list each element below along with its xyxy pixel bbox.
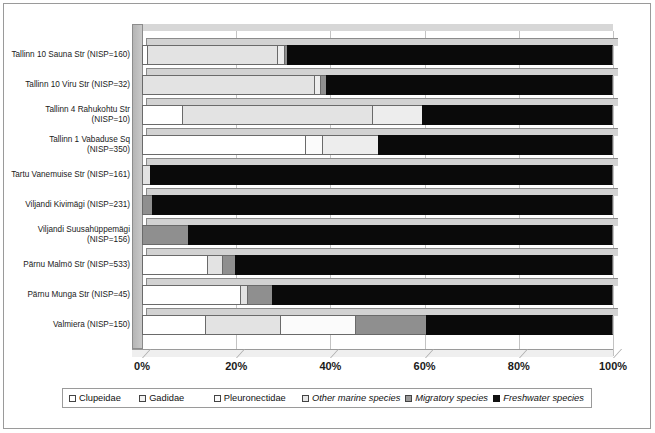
bar-row <box>142 315 613 335</box>
legend-label: Pleuronectidae <box>224 393 286 403</box>
bar-segment-pleuronectidae[interactable] <box>305 135 322 155</box>
legend-swatch-icon <box>139 395 146 402</box>
bar-segment-gadidae[interactable] <box>240 285 247 305</box>
legend-swatch-icon <box>302 395 309 402</box>
plot-area <box>142 31 613 356</box>
category-label: Tallinn 4 Rahukohtu Str(NISP=10) <box>0 105 130 125</box>
stacked-bar[interactable] <box>142 255 613 275</box>
bar-segment-clupeidae[interactable] <box>142 285 240 305</box>
category-label: Pärnu Malmö Str (NISP=533) <box>0 260 130 270</box>
legend-item-other-marine-species[interactable]: Other marine species <box>298 393 401 403</box>
bar-segment-freshwater-species[interactable] <box>272 285 613 305</box>
legend-item-gadidae[interactable]: Gadidae <box>135 393 210 403</box>
stacked-bar[interactable] <box>142 135 613 155</box>
bar-segment-gadidae[interactable] <box>205 315 280 335</box>
bar-segment-clupeidae[interactable] <box>142 135 305 155</box>
bar-segment-clupeidae[interactable] <box>142 255 207 275</box>
legend-swatch-icon <box>214 395 221 402</box>
category-label: Valmiera (NISP=150) <box>0 320 130 330</box>
legend-label: Freshwater species <box>503 393 584 403</box>
bar-row <box>142 45 613 65</box>
chart-screenshot: Tallinn 10 Sauna Str (NISP=160)Tallinn 1… <box>0 0 655 433</box>
bar-segment-other-marine-species[interactable] <box>277 45 285 65</box>
category-label: Tallinn 10 Viru Str (NISP=32) <box>0 80 130 90</box>
stacked-bar[interactable] <box>142 105 613 125</box>
bar-row <box>142 75 613 95</box>
x-tick-label-100: 100% <box>590 360 636 372</box>
bar-segment-migratory-species[interactable] <box>355 315 425 335</box>
bar-row <box>142 225 613 245</box>
plot-floor <box>132 349 613 357</box>
category-label: Pärnu Munga Str (NISP=45) <box>0 290 130 300</box>
x-tick-label-80: 80% <box>496 360 542 372</box>
x-tick-label-60: 60% <box>402 360 448 372</box>
legend-swatch-icon <box>405 395 412 402</box>
legend-item-migratory-species[interactable]: Migratory species <box>401 393 489 403</box>
bar-segment-gadidae[interactable] <box>147 45 277 65</box>
bar-segment-migratory-species[interactable] <box>222 255 235 275</box>
bar-segment-other-marine-species[interactable] <box>322 135 378 155</box>
bar-segment-freshwater-species[interactable] <box>235 255 613 275</box>
legend-swatch-icon <box>69 395 76 402</box>
bar-segment-pleuronectidae[interactable] <box>280 315 355 335</box>
bar-row <box>142 285 613 305</box>
x-tick-label-0: 0% <box>119 360 165 372</box>
legend-label: Other marine species <box>312 393 400 403</box>
bar-segment-migratory-species[interactable] <box>142 195 152 215</box>
bar-segment-migratory-species[interactable] <box>247 285 272 305</box>
stacked-bar[interactable] <box>142 45 613 65</box>
legend-swatch-icon <box>493 395 500 402</box>
category-label: Viljandi Kivimägi (NISP=231) <box>0 200 130 210</box>
stacked-bar[interactable] <box>142 285 613 305</box>
bar-segment-gadidae[interactable] <box>142 165 150 185</box>
stacked-bar[interactable] <box>142 75 613 95</box>
bar-segment-gadidae[interactable] <box>182 105 372 125</box>
legend-item-pleuronectidae[interactable]: Pleuronectidae <box>210 393 298 403</box>
bar-segment-migratory-species[interactable] <box>142 225 188 245</box>
bar-segment-freshwater-species[interactable] <box>287 45 613 65</box>
x-tick-label-20: 20% <box>213 360 259 372</box>
legend-item-freshwater-species[interactable]: Freshwater species <box>489 393 591 403</box>
bar-segment-clupeidae[interactable] <box>142 105 182 125</box>
chart-legend: ClupeidaeGadidaePleuronectidaeOther mari… <box>62 388 592 408</box>
legend-label: Migratory species <box>415 393 488 403</box>
legend-item-clupeidae[interactable]: Clupeidae <box>63 393 135 403</box>
bar-segment-freshwater-species[interactable] <box>378 135 613 155</box>
bar-segment-gadidae[interactable] <box>207 255 222 275</box>
x-tick-label-40: 40% <box>307 360 353 372</box>
bar-row <box>142 255 613 275</box>
stacked-bar[interactable] <box>142 165 613 185</box>
stacked-bar[interactable] <box>142 195 613 215</box>
bar-row <box>142 165 613 185</box>
bar-segment-freshwater-species[interactable] <box>150 165 613 185</box>
category-label: Tallinn 10 Sauna Str (NISP=160) <box>0 50 130 60</box>
category-label: Tallinn 1 Vabaduse Sq(NISP=350) <box>0 135 130 155</box>
bar-segment-other-marine-species[interactable] <box>372 105 422 125</box>
stacked-bar[interactable] <box>142 315 613 335</box>
bar-segment-freshwater-species[interactable] <box>326 75 613 95</box>
bar-segment-gadidae[interactable] <box>142 75 314 95</box>
bar-segment-freshwater-species[interactable] <box>422 105 613 125</box>
bar-segment-freshwater-species[interactable] <box>188 225 613 245</box>
bar-segment-freshwater-species[interactable] <box>152 195 613 215</box>
bar-row <box>142 105 613 125</box>
legend-label: Gadidae <box>149 393 184 403</box>
bar-row <box>142 195 613 215</box>
bar-segment-freshwater-species[interactable] <box>426 315 613 335</box>
category-label: Tartu Vanemuise Str (NISP=161) <box>0 170 130 180</box>
stacked-bar[interactable] <box>142 225 613 245</box>
legend-label: Clupeidae <box>79 393 121 403</box>
bar-row <box>142 135 613 155</box>
bar-segment-clupeidae[interactable] <box>142 315 205 335</box>
category-label: Viljandi Suusahüppemägi(NISP=156) <box>0 225 130 245</box>
